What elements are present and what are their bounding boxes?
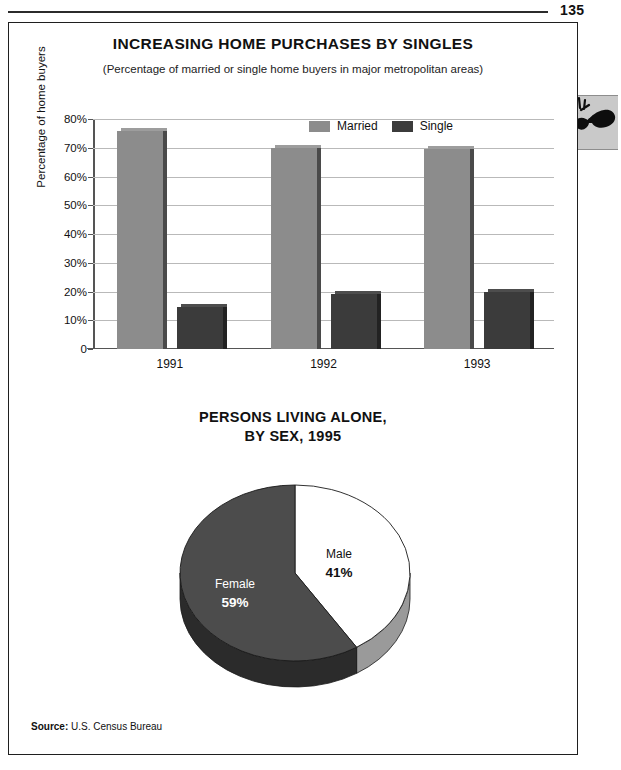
source-label: Source: — [31, 721, 68, 732]
bar-plot-area: 80%70%60%50%40%30%20%10%0 199119921993 — [93, 119, 554, 349]
page-number: 135 — [560, 2, 610, 18]
bar-married-1992 — [271, 148, 317, 349]
bar-single-1991 — [177, 307, 223, 349]
bar-top — [428, 146, 474, 149]
pie-chart: Male 41% Female 59% — [174, 478, 416, 693]
pie-title-line-1: PERSONS LIVING ALONE, — [9, 408, 577, 427]
header-rule — [8, 11, 548, 13]
y-tick-mark — [88, 177, 93, 178]
pie-title-line-2: BY SEX, 1995 — [9, 427, 577, 446]
y-tick-label: 40% — [64, 228, 87, 240]
y-tick-mark — [88, 205, 93, 206]
bar-married-1993 — [424, 149, 470, 349]
y-tick-mark — [88, 119, 93, 120]
bar-side — [223, 307, 227, 349]
y-tick-mark — [88, 320, 93, 321]
y-tick-mark — [88, 292, 93, 293]
bar-face — [484, 292, 530, 350]
x-tick-label-1993: 1993 — [464, 357, 491, 371]
y-tick-mark — [88, 148, 93, 149]
x-tick-label-1991: 1991 — [156, 357, 183, 371]
y-tick-mark — [88, 349, 93, 350]
source-note: Source: U.S. Census Bureau — [31, 721, 162, 732]
content-frame: INCREASING HOME PURCHASES BY SINGLES (Pe… — [8, 22, 578, 755]
bar-top — [335, 291, 381, 294]
bar-married-1991 — [117, 131, 163, 350]
bar-chart-subtitle: (Percentage of married or single home bu… — [9, 63, 577, 75]
bar-single-1993 — [484, 292, 530, 350]
y-tick-label: 50% — [64, 199, 87, 211]
y-tick-label: 10% — [64, 314, 87, 326]
bar-face — [424, 149, 470, 349]
bar-top — [181, 304, 227, 307]
bar-face — [177, 307, 223, 349]
bar-chart: Percentage of home buyers Married Single… — [9, 89, 579, 359]
source-value: U.S. Census Bureau — [71, 721, 162, 732]
gridline — [93, 119, 554, 120]
bar-face — [271, 148, 317, 349]
bar-face — [331, 294, 377, 349]
y-tick-label: 0 — [81, 343, 87, 355]
bar-top — [121, 128, 167, 131]
bar-top — [488, 289, 534, 292]
y-axis-label: Percentage of home buyers — [35, 27, 47, 207]
bar-side — [530, 292, 534, 350]
bar-side — [377, 294, 381, 349]
y-tick-label: 70% — [64, 142, 87, 154]
y-tick-mark — [88, 234, 93, 235]
y-tick-label: 80% — [64, 113, 87, 125]
pie-graphic — [174, 478, 416, 693]
page-canvas: 135 INCREASING HOME PURCHASES BY SINGLES… — [0, 0, 621, 770]
bar-chart-title: INCREASING HOME PURCHASES BY SINGLES — [9, 35, 577, 53]
y-tick-label: 30% — [64, 257, 87, 269]
bar-side — [317, 148, 321, 349]
pie-chart-title: PERSONS LIVING ALONE, BY SEX, 1995 — [9, 408, 577, 446]
bar-face — [117, 131, 163, 350]
y-tick-label: 20% — [64, 286, 87, 298]
y-tick-label: 60% — [64, 171, 87, 183]
bar-side — [163, 131, 167, 350]
bar-side — [470, 149, 474, 349]
bar-top — [275, 145, 321, 148]
bar-single-1992 — [331, 294, 377, 349]
y-tick-mark — [88, 263, 93, 264]
x-tick-label-1992: 1992 — [310, 357, 337, 371]
